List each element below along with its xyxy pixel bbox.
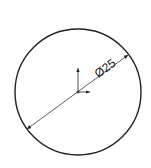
origin-axes-icon (77, 68, 91, 94)
diameter-dimension-label[interactable]: Ø25 (92, 56, 119, 81)
sketch-canvas[interactable]: Ø25 (0, 0, 151, 168)
